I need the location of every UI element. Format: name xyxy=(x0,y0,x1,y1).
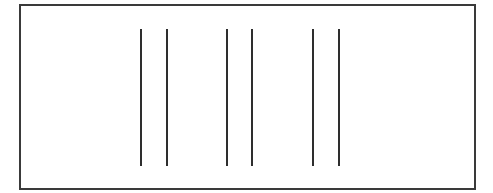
diagram-frame xyxy=(19,4,476,190)
vertical-line-pair-3-right xyxy=(338,29,340,166)
vertical-line-pair-3-left xyxy=(312,29,314,166)
vertical-line-pair-1-left xyxy=(140,29,142,166)
vertical-line-pair-2-left xyxy=(226,29,228,166)
vertical-line-pair-1-right xyxy=(166,29,168,166)
vertical-line-pair-2-right xyxy=(251,29,253,166)
